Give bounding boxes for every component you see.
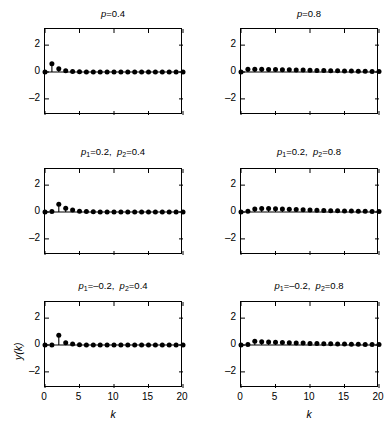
data-point-marker xyxy=(287,207,292,212)
y-tick-label: 0 xyxy=(214,338,236,349)
data-point-marker xyxy=(301,207,306,212)
data-point-marker xyxy=(49,209,54,214)
data-point-marker xyxy=(273,206,278,211)
y-tick-label: –2 xyxy=(18,92,40,103)
plot-area-mid-left xyxy=(44,168,182,254)
data-point-marker xyxy=(118,343,123,348)
data-point-marker xyxy=(63,68,68,73)
data-point-marker xyxy=(63,340,68,345)
data-point-marker xyxy=(294,67,299,72)
data-series xyxy=(239,339,382,348)
data-point-marker xyxy=(118,210,123,215)
data-point-marker xyxy=(160,210,165,215)
data-point-marker xyxy=(321,208,326,213)
data-point-marker xyxy=(84,69,89,74)
data-point-marker xyxy=(363,69,368,74)
y-tick-label: 2 xyxy=(214,38,236,49)
data-point-marker xyxy=(314,341,319,346)
x-axis-label: k xyxy=(240,408,378,420)
data-point-marker xyxy=(84,209,89,214)
data-point-marker xyxy=(70,208,75,213)
plot-area-bot-left xyxy=(44,301,182,387)
data-point-marker xyxy=(301,341,306,346)
data-point-marker xyxy=(125,210,130,215)
plot-svg xyxy=(241,29,379,115)
data-point-marker xyxy=(301,68,306,73)
data-point-marker xyxy=(125,70,130,75)
data-point-marker xyxy=(105,343,110,348)
data-point-marker xyxy=(363,209,368,214)
plot-area-mid-right xyxy=(240,168,378,254)
data-point-marker xyxy=(112,209,117,214)
data-point-marker xyxy=(118,70,123,75)
data-point-marker xyxy=(112,70,117,75)
data-point-marker xyxy=(160,343,165,348)
x-tick-label: 10 xyxy=(297,391,321,402)
data-point-marker xyxy=(308,68,313,73)
data-point-marker xyxy=(239,210,244,215)
data-point-marker xyxy=(335,341,340,346)
data-point-marker xyxy=(266,340,271,345)
y-tick-label: –2 xyxy=(214,232,236,243)
y-tick-label: 0 xyxy=(18,65,40,76)
data-point-marker xyxy=(245,342,250,347)
data-point-marker xyxy=(294,207,299,212)
data-point-marker xyxy=(287,340,292,345)
data-point-marker xyxy=(363,342,368,347)
data-point-marker xyxy=(105,70,110,75)
data-point-marker xyxy=(98,209,103,214)
y-tick-label: 2 xyxy=(18,311,40,322)
data-point-marker xyxy=(356,69,361,74)
data-point-marker xyxy=(349,342,354,347)
data-point-marker xyxy=(70,69,75,74)
y-tick-label: 2 xyxy=(214,178,236,189)
y-tick-label: 2 xyxy=(18,178,40,189)
data-point-marker xyxy=(63,206,68,211)
data-series xyxy=(43,202,186,215)
data-point-marker xyxy=(377,342,382,347)
data-point-marker xyxy=(335,208,340,213)
panel-title-mid-left: p1=0.2, p2=0.4 xyxy=(14,146,212,158)
plot-svg xyxy=(241,302,379,388)
data-point-marker xyxy=(132,210,137,215)
x-tick-label: 5 xyxy=(67,391,91,402)
data-point-marker xyxy=(43,210,48,215)
data-point-marker xyxy=(321,68,326,73)
data-point-marker xyxy=(328,208,333,213)
x-tick-label: 20 xyxy=(170,391,194,402)
data-point-marker xyxy=(181,343,186,348)
data-point-marker xyxy=(91,342,96,347)
data-point-marker xyxy=(146,70,151,75)
x-tick-label: 20 xyxy=(366,391,390,402)
data-point-marker xyxy=(273,340,278,345)
x-tick-label: 5 xyxy=(263,391,287,402)
panel-title-top-left: p=0.4 xyxy=(14,8,212,19)
data-point-marker xyxy=(349,69,354,74)
data-point-marker xyxy=(328,68,333,73)
data-point-marker xyxy=(139,70,144,75)
data-point-marker xyxy=(77,69,82,74)
data-point-marker xyxy=(43,343,48,348)
data-point-marker xyxy=(308,207,313,212)
data-point-marker xyxy=(49,343,54,348)
y-tick-label: 0 xyxy=(18,205,40,216)
x-tick-label: 15 xyxy=(136,391,160,402)
data-point-marker xyxy=(342,208,347,213)
x-tick-label: 0 xyxy=(228,391,252,402)
data-point-marker xyxy=(370,209,375,214)
data-point-marker xyxy=(259,339,264,344)
data-point-marker xyxy=(370,69,375,74)
data-point-marker xyxy=(98,342,103,347)
data-point-marker xyxy=(280,340,285,345)
y-tick-label: –2 xyxy=(18,365,40,376)
data-point-marker xyxy=(56,66,61,71)
data-point-marker xyxy=(91,209,96,214)
plot-area-bot-right xyxy=(240,301,378,387)
data-point-marker xyxy=(160,70,165,75)
panel-title-bot-right: p1=–0.2, p2=0.8 xyxy=(210,280,392,292)
data-point-marker xyxy=(349,209,354,214)
data-point-marker xyxy=(49,61,54,66)
figure-canvas: p=0.4–202p=0.8–202p1=0.2, p2=0.4–202p1=0… xyxy=(0,0,392,438)
data-point-marker xyxy=(132,70,137,75)
data-point-marker xyxy=(342,342,347,347)
